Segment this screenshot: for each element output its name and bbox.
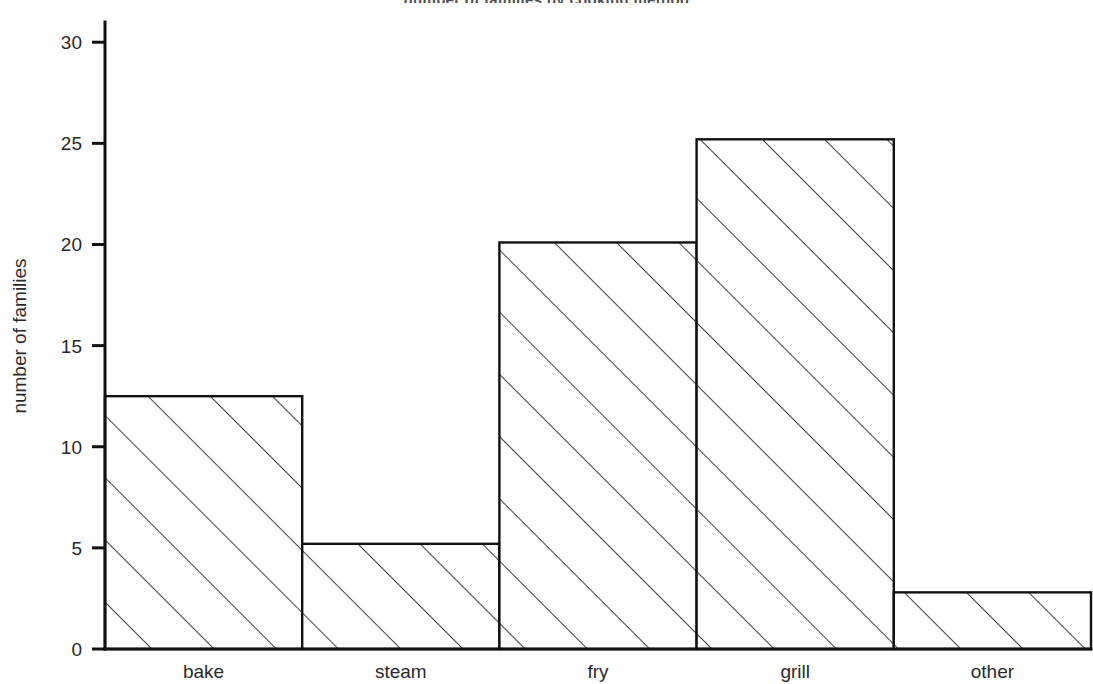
- bar-other: [894, 592, 1091, 649]
- y-axis-title: number of families: [9, 258, 30, 413]
- y-tick-label: 5: [71, 538, 82, 559]
- bars-group: [105, 139, 1091, 649]
- category-labels-group: bakesteamfrygrillother: [183, 661, 1015, 682]
- y-tick-label: 10: [61, 437, 82, 458]
- category-label-grill: grill: [780, 661, 810, 682]
- bar-steam: [302, 544, 499, 649]
- y-tick-label: 25: [61, 133, 82, 154]
- category-label-bake: bake: [183, 661, 224, 682]
- y-tick-label: 20: [61, 234, 82, 255]
- plot-area: 051015202530 bakesteamfrygrillother numb…: [0, 0, 1093, 684]
- category-label-steam: steam: [375, 661, 427, 682]
- bar-chart: number of families by cooking method 051…: [0, 0, 1093, 684]
- bar-grill: [697, 139, 894, 649]
- bar-bake: [105, 396, 302, 649]
- y-tick-label: 15: [61, 336, 82, 357]
- y-ticks-group: 051015202530: [61, 32, 105, 660]
- y-tick-label: 30: [61, 32, 82, 53]
- category-label-other: other: [971, 661, 1015, 682]
- y-tick-label: 0: [71, 639, 82, 660]
- bar-fry: [499, 242, 696, 649]
- category-label-fry: fry: [587, 661, 609, 682]
